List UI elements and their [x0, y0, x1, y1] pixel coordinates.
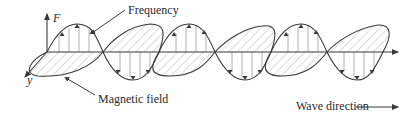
magnetic-field-label: Magnetic field: [98, 93, 168, 105]
frequency-leader-line: [92, 10, 125, 33]
y-axis-label: y: [27, 74, 32, 86]
wave-direction-label: Wave direction: [296, 100, 369, 112]
f-axis-label: F: [53, 12, 60, 24]
magnetic-field-leader-line: [66, 78, 95, 95]
em-wave-diagram: F y Frequency Magnetic field Wave direct…: [0, 0, 418, 118]
frequency-label: Frequency: [128, 4, 179, 16]
magnetic-field-wave: [29, 24, 389, 76]
